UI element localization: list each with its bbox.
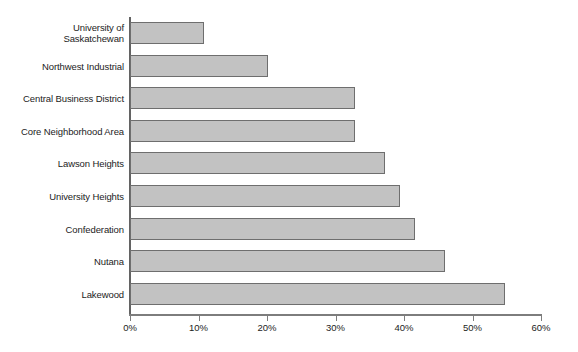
bar	[130, 120, 355, 142]
x-axis-tick-label: 50%	[463, 322, 482, 334]
bar-chart: University ofSaskatchewanNorthwest Indus…	[0, 0, 578, 352]
x-axis-tick-label: 60%	[531, 322, 550, 334]
plot-area	[130, 18, 541, 315]
category-label: Nutana	[0, 256, 124, 267]
x-axis-tick	[541, 316, 542, 321]
x-axis-tick	[473, 316, 474, 321]
x-axis-tick	[404, 316, 405, 321]
bar	[130, 22, 204, 44]
bar	[130, 87, 355, 109]
category-label: University ofSaskatchewan	[0, 22, 124, 44]
x-axis-tick	[267, 316, 268, 321]
x-axis-tick	[130, 316, 131, 321]
x-axis-tick-label: 20%	[257, 322, 276, 334]
bar	[130, 185, 400, 207]
category-label: Central Business District	[0, 93, 124, 104]
x-axis-tick	[336, 316, 337, 321]
category-axis-labels: University ofSaskatchewanNorthwest Indus…	[0, 18, 124, 315]
x-axis-tick	[199, 316, 200, 321]
bar	[130, 218, 415, 240]
bar	[130, 55, 268, 77]
category-label: Northwest Industrial	[0, 61, 124, 72]
category-label: Lakewood	[0, 289, 124, 300]
category-label: University Heights	[0, 191, 124, 202]
x-axis-tick-label: 10%	[189, 322, 208, 334]
category-label-line: Saskatchewan	[0, 33, 124, 44]
category-label: Confederation	[0, 224, 124, 235]
x-axis-tick-label: 40%	[394, 322, 413, 334]
x-axis-tick-label: 0%	[123, 322, 137, 334]
bar	[130, 152, 385, 174]
category-label-line: University of	[0, 22, 124, 33]
category-label: Core Neighborhood Area	[0, 126, 124, 137]
category-label: Lawson Heights	[0, 158, 124, 169]
bar	[130, 283, 505, 305]
bar	[130, 250, 445, 272]
x-axis-tick-label: 30%	[326, 322, 345, 334]
